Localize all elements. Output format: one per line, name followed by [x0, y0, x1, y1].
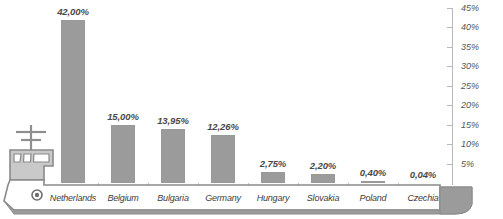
- axis-label-30%: 30%: [461, 61, 479, 71]
- mast-icon: [16, 125, 46, 150]
- axis-label-40%: 40%: [461, 22, 479, 32]
- axis-tick-45%: [447, 8, 453, 9]
- ship-bridge-icon: [10, 150, 53, 180]
- value-label-netherlands: 42,00%: [43, 6, 103, 17]
- axis-tick-20%: [447, 105, 453, 106]
- axis-label-20%: 20%: [461, 100, 479, 110]
- axis-tick-30%: [447, 66, 453, 67]
- axis-tick-40%: [447, 27, 453, 28]
- category-labels: NetherlandsBelgiumBulgariaGermanyHungary…: [0, 185, 503, 205]
- axis-label-45%: 45%: [461, 3, 479, 13]
- category-label-czechia: Czechia: [391, 193, 455, 203]
- axis-tick-35%: [447, 47, 453, 48]
- axis-label-35%: 35%: [461, 42, 479, 52]
- axis-tick-25%: [447, 86, 453, 87]
- axis-label-25%: 25%: [461, 81, 479, 91]
- chart-container: 42,00%15,00%13,95%12,26%2,75%2,20%0,40%0…: [0, 0, 503, 219]
